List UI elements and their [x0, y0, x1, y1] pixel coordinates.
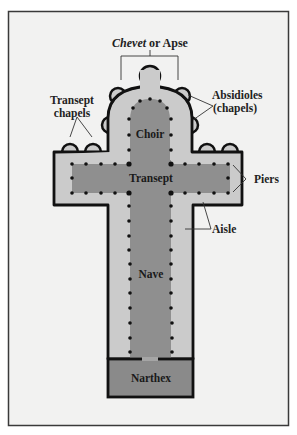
label-absidioles-line1: Absidioles: [212, 89, 263, 101]
label-chevet-italic: Chevet: [112, 36, 147, 50]
label-aisle: Aisle: [212, 223, 236, 235]
label-nave: Nave: [139, 268, 164, 280]
label-chevet-rest: or Apse: [146, 36, 188, 50]
label-choir: Choir: [136, 128, 165, 140]
label-absidioles-line2: (chapels): [213, 102, 257, 115]
label-transept-chapels-line2: chapels: [54, 107, 91, 120]
nave-space: [130, 160, 171, 359]
label-piers: Piers: [254, 173, 279, 185]
cathedral-plan-diagram: Chevet or Apse Absidioles (chapels) Tran…: [0, 0, 297, 435]
label-transept: Transept: [129, 172, 173, 185]
label-narthex: Narthex: [131, 372, 171, 384]
label-chevet: Chevet or Apse: [112, 36, 188, 50]
label-transept-chapels-line1: Transept: [50, 94, 94, 107]
